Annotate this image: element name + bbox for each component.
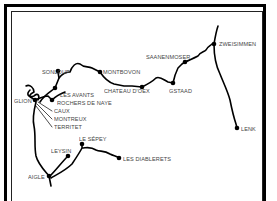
station-dot-saanenmoser[interactable] [183,60,188,65]
label-le-sepey: LE SÉPEY [79,135,107,142]
label-territet: TERRITET [54,123,82,130]
label-caux: CAUX [54,107,70,114]
station-dot-rochers-de-naye[interactable] [50,98,55,103]
station-dot-glion[interactable] [33,98,38,103]
station-dot-montbovon[interactable] [98,70,103,75]
station-dot-leysin[interactable] [66,154,71,159]
station-dot-aigle[interactable] [47,174,52,179]
label-zweisimmen: ZWEISIMMEN [219,40,256,47]
label-montreux: MONTREUX [54,115,87,122]
label-sonloup: SONLOUP [42,68,70,75]
label-glion: GLION [14,97,32,104]
label-aigle: AIGLE [28,173,45,180]
route-zweisimmen-lenk [214,44,237,128]
station-dot-lenk[interactable] [235,126,240,131]
station-dot-les-avants[interactable] [53,86,58,91]
label-rochers-de-naye: ROCHERS DE NAYE [57,99,112,106]
label-leysin: LEYSIN [51,147,71,154]
rail-network-map [0,0,277,201]
label-montbovon: MONTBOVON [103,68,140,75]
leader-lines [36,102,52,127]
station-dot-le-sepey[interactable] [80,142,85,147]
label-saanenmoser: SAANENMOSER [146,53,190,60]
station-dot-zweisimmen[interactable] [212,42,217,47]
station-dot-gstaad[interactable] [171,81,176,86]
label-gstaad: GSTAAD [169,87,192,94]
label-les-avants: LES AVANTS [60,91,94,98]
label-lenk: LENK [241,125,256,132]
station-dot-les-diablerets[interactable] [117,156,122,161]
label-les-diablerets: LES DIABLERETS [123,155,171,162]
label-chateau-doex: CHATEAU D'OEX [104,87,150,94]
